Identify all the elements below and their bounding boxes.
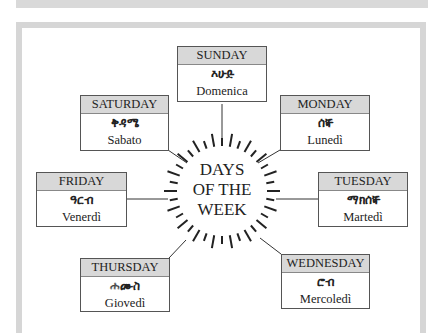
day-italian: Sabato: [81, 131, 168, 149]
center-title-line3: WEEK: [182, 200, 262, 220]
day-english: MONDAY: [281, 96, 369, 114]
day-italian: Venerdì: [37, 208, 126, 226]
day-box-tuesday: TUESDAY ማክሰኞ Martedì: [318, 172, 408, 227]
day-italian: Mercoledì: [282, 290, 369, 308]
day-english: FRIDAY: [37, 173, 126, 191]
day-english: SATURDAY: [81, 96, 168, 114]
day-amharic: ማክሰኞ: [319, 191, 407, 208]
day-amharic: ሰኞ: [281, 114, 369, 131]
center-title: DAYS OF THE WEEK: [182, 160, 262, 220]
day-english: WEDNESDAY: [282, 255, 369, 273]
day-box-thursday: THURSDAY ሐሙስ Giovedì: [80, 258, 170, 312]
day-amharic: እሁድ: [178, 65, 266, 82]
day-italian: Domenica: [178, 82, 266, 100]
day-box-friday: FRIDAY ዓርብ Venerdì: [36, 172, 127, 227]
day-italian: Martedì: [319, 208, 407, 226]
center-title-line1: DAYS: [182, 160, 262, 180]
day-italian: Lunedì: [281, 131, 369, 149]
day-amharic: ዓርብ: [37, 191, 126, 208]
center-title-line2: OF THE: [182, 180, 262, 200]
day-box-wednesday: WEDNESDAY ሮብ Mercoledì: [281, 254, 370, 309]
day-english: SUNDAY: [178, 47, 266, 65]
day-italian: Giovedì: [81, 294, 169, 312]
day-english: TUESDAY: [319, 173, 407, 191]
day-amharic: ሮብ: [282, 273, 369, 290]
day-amharic: ቅዳሜ: [81, 114, 168, 131]
day-amharic: ሐሙስ: [81, 277, 169, 294]
day-box-saturday: SATURDAY ቅዳሜ Sabato: [80, 95, 169, 151]
day-box-sunday: SUNDAY እሁድ Domenica: [177, 46, 267, 102]
day-english: THURSDAY: [81, 259, 169, 277]
day-box-monday: MONDAY ሰኞ Lunedì: [280, 95, 370, 151]
